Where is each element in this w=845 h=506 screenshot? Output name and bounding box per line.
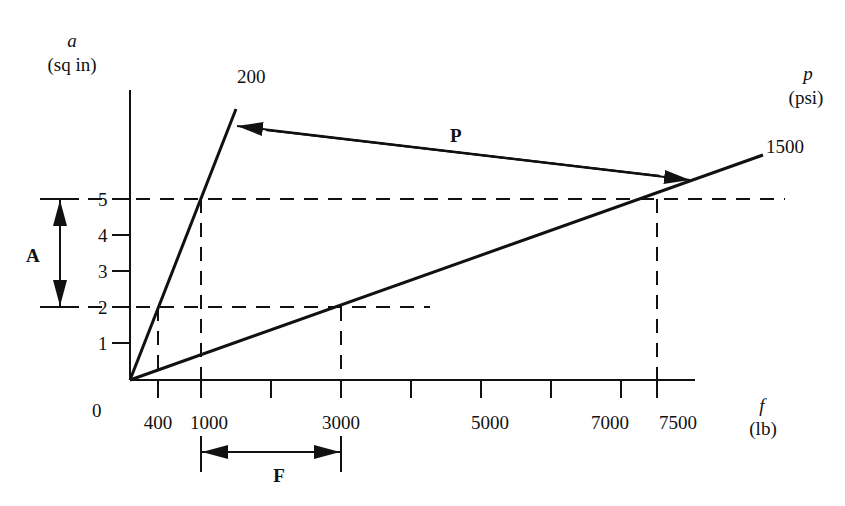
p-axis-symbol: p <box>801 63 813 84</box>
series-label-1500: 1500 <box>766 136 804 157</box>
f-arrow <box>201 436 341 472</box>
p-axis-unit: (psi) <box>789 87 824 109</box>
x-tick-1000: 1000 <box>190 412 228 433</box>
x-tick-400: 400 <box>144 412 173 433</box>
series <box>130 109 763 380</box>
annotation-f: F <box>273 465 285 486</box>
x-tick-labels: 0 400 1000 3000 5000 7000 7500 <box>92 400 697 433</box>
y-tick-1: 1 <box>98 333 108 354</box>
line-200-psi <box>130 109 236 380</box>
y-axis-symbol: a <box>67 30 77 51</box>
series-label-200: 200 <box>237 66 266 87</box>
p-arrow <box>237 126 690 180</box>
x-ticks <box>158 380 657 398</box>
annotation-a: A <box>26 245 40 266</box>
a-arrow <box>42 199 79 307</box>
x-tick-7500: 7500 <box>659 412 697 433</box>
x-tick-5000: 5000 <box>471 412 509 433</box>
axes <box>130 90 695 380</box>
y-tick-4: 4 <box>98 225 108 246</box>
x-axis-unit: (lb) <box>749 418 776 440</box>
x-tick-7000: 7000 <box>591 412 629 433</box>
x-tick-3000: 3000 <box>322 412 360 433</box>
reference-lines <box>40 199 785 380</box>
line-1500-psi <box>130 155 763 380</box>
y-ticks <box>112 199 130 343</box>
force-area-pressure-diagram: 5 4 3 2 1 0 400 1000 3000 5000 7000 7500 <box>0 0 845 506</box>
y-tick-3: 3 <box>98 261 108 282</box>
x-axis-symbol: f <box>759 395 767 416</box>
origin-label: 0 <box>92 400 102 421</box>
y-tick-labels: 5 4 3 2 1 <box>98 189 108 354</box>
y-axis-unit: (sq in) <box>47 54 96 76</box>
annotation-p: P <box>450 125 462 146</box>
